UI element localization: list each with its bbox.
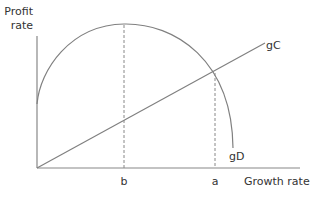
a-marker-label: a <box>212 175 219 188</box>
y-axis-label-line2: rate <box>11 19 34 32</box>
gC-label: gC <box>266 39 281 52</box>
b-marker-label: b <box>121 175 128 188</box>
gD-curve <box>37 24 233 148</box>
gD-label: gD <box>229 150 244 163</box>
profit-growth-diagram: Profit rate gC gD b a Growth rate <box>0 0 313 197</box>
y-axis-label-line1: Profit <box>4 5 33 18</box>
x-axis-label: Growth rate <box>244 175 310 188</box>
